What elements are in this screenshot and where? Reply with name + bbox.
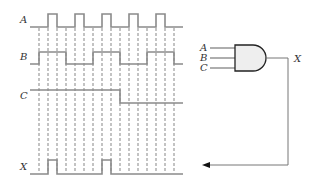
waveform-x [30, 160, 183, 174]
waveform-labels: ABCX [19, 14, 28, 172]
time-gridlines [39, 28, 174, 172]
arrow-head-icon [202, 162, 210, 168]
waveform-c [30, 90, 183, 103]
gate-input-label-c: C [200, 62, 208, 73]
waveforms [30, 14, 183, 174]
output-wire [208, 58, 288, 165]
and-gate-body [235, 45, 266, 71]
gate-output-label: X [293, 53, 302, 64]
waveform-a [30, 14, 183, 27]
waveform-b [30, 52, 183, 64]
timing-diagram: ABCX A B C X [0, 0, 311, 184]
signal-label-x: X [19, 161, 28, 172]
and-gate: A B C X [199, 42, 302, 168]
signal-label-b: B [19, 51, 27, 62]
signal-label-a: A [19, 14, 27, 25]
signal-label-c: C [20, 90, 28, 101]
